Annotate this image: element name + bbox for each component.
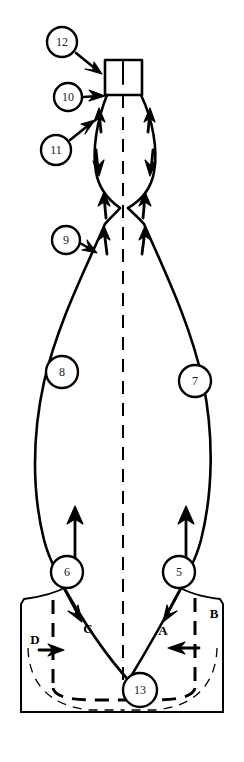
callout-8[interactable]: 8 — [46, 356, 78, 388]
callout-label-8: 8 — [59, 365, 65, 379]
technical-flow-diagram: 12 10 11 9 8 7 6 5 — [0, 0, 244, 762]
callout-6[interactable]: 6 — [51, 556, 83, 588]
neck-assembly — [105, 60, 142, 95]
flow-arrow-base-left-diagonal-C — [64, 588, 82, 622]
callout-12[interactable]: 12 — [47, 27, 77, 57]
main-body-right-wall — [144, 224, 211, 586]
callout-11[interactable]: 11 — [41, 135, 71, 165]
waist-outline — [105, 208, 144, 224]
diagram-canvas: 12 10 11 9 8 7 6 5 — [0, 0, 244, 762]
section-letter-d: D — [30, 632, 39, 647]
flow-arrow-upper-bulb-left-up — [94, 108, 105, 132]
callout-label-10: 10 — [62, 90, 74, 104]
flow-arrow-base-left-inward-D — [39, 644, 64, 656]
callout-label-5: 5 — [176, 565, 182, 579]
callout-9[interactable]: 9 — [52, 226, 80, 254]
callout-13[interactable]: 13 — [123, 673, 157, 707]
flow-arrow-waist-right-inner-up — [139, 226, 151, 254]
callout-label-13: 13 — [134, 683, 146, 697]
callout-10[interactable]: 10 — [54, 83, 82, 111]
callout-label-12: 12 — [56, 35, 68, 49]
leader-arrow-callout-11 — [70, 120, 95, 140]
callout-5[interactable]: 5 — [163, 556, 195, 588]
callout-label-6: 6 — [64, 565, 70, 579]
waist-right-edge — [128, 208, 144, 224]
callout-label-7: 7 — [192, 374, 198, 388]
flow-arrow-body-right-up — [178, 506, 194, 558]
leader-arrow-callout-10 — [83, 90, 105, 101]
main-body-left-wall — [35, 224, 105, 586]
leader-arrow-callout-12 — [76, 53, 102, 74]
upper-bulb-outline — [95, 95, 156, 208]
flow-arrow-waist-left-inner-up — [98, 226, 110, 254]
callout-label-11: 11 — [50, 143, 62, 157]
flow-arrow-waist-right-outer-up — [139, 192, 151, 218]
waist-left-edge — [105, 208, 120, 224]
base-left-dashed-curve — [53, 688, 123, 700]
section-letter-b: B — [210, 606, 219, 621]
section-letter-a: A — [158, 623, 168, 638]
flow-arrow-body-left-up — [67, 506, 83, 558]
base-left-diagonal — [58, 577, 131, 683]
section-letter-c: C — [83, 621, 92, 636]
callout-label-9: 9 — [63, 233, 69, 247]
callout-7[interactable]: 7 — [179, 365, 211, 397]
flow-arrow-base-right-diagonal-A — [163, 588, 181, 622]
